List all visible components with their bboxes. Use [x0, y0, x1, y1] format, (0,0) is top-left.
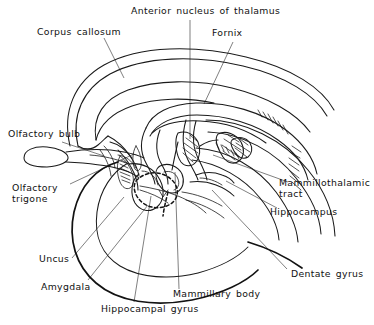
label-hippocampus: Hippocampus: [270, 206, 337, 217]
fornix-column-right: [157, 130, 168, 184]
label-olfactory-bulb: Olfactory bulb: [8, 128, 80, 139]
fornix-crus-descending-medial: [194, 121, 207, 180]
label-olfactory-trigone-line1: Olfactory: [12, 182, 58, 193]
label-mammillary-body: Mammillary body: [173, 288, 260, 299]
label-uncus: Uncus: [39, 253, 69, 264]
thalamic-connection-band: [200, 140, 218, 146]
corpus-callosum-rostrum: [78, 136, 108, 149]
hippocampus-tail-recurve: [231, 138, 252, 159]
leader-dentate-gyrus: [212, 190, 287, 269]
label-mammillothalamic-tract-line1: Mammillothalamic: [279, 177, 370, 188]
leader-olfactory-bulb: [62, 142, 104, 156]
hypothalamic-floor: [140, 186, 206, 213]
dentate-gyrus-crest: [248, 242, 302, 268]
olfactory-bulb-outline: [24, 147, 68, 167]
corpus-callosum-genu-fold: [96, 99, 214, 140]
label-olfactory-trigone-line2: trigone: [12, 193, 48, 204]
leader-hippocampus: [226, 181, 277, 208]
hippocampus-structure: [190, 110, 335, 268]
hippocampal-head-lower: [190, 182, 234, 196]
corpus-callosum-structure: [68, 49, 334, 149]
leader-lines: [62, 20, 288, 302]
label-mammillothalamic-tract-line2: tract: [279, 188, 303, 199]
thalamus-lateral-outline: [216, 132, 243, 163]
label-dentate-gyrus: Dentate gyrus: [291, 268, 364, 279]
septal-region: [100, 136, 141, 190]
accessory-striae: [140, 186, 224, 218]
label-hippocampal-gyrus: Hippocampal gyrus: [101, 303, 199, 314]
lamina-terminalis: [100, 150, 111, 176]
corpus-callosum-ventral-lamina: [95, 82, 310, 140]
label-anterior-nucleus-of-thalamus: Anterior nucleus of thalamus: [131, 5, 280, 16]
label-corpus-callosum: Corpus callosum: [37, 26, 121, 37]
corpus-callosum-outer-edge: [68, 49, 334, 146]
label-fornix: Fornix: [212, 27, 242, 38]
paraterminal-gyrus: [133, 146, 141, 171]
mammillothalamic-tract-path: [172, 142, 178, 170]
limbic-system-diagram: Anterior nucleus of thalamus Fornix Corp…: [0, 0, 374, 325]
label-amygdala: Amygdala: [41, 281, 91, 292]
